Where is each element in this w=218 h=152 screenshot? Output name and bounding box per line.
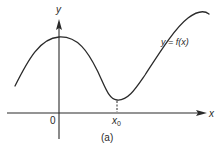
figure-caption: (a) [101, 132, 113, 143]
graph-canvas: y x 0 x0 y = f(x) (a) [0, 0, 218, 152]
function-graph-figure: y x 0 x0 y = f(x) (a) [0, 0, 218, 152]
function-curve [15, 12, 209, 100]
x-axis-label: x [208, 108, 215, 119]
x0-label-subscript: 0 [117, 120, 121, 127]
y-axis-label: y [55, 4, 62, 15]
origin-label: 0 [50, 115, 56, 126]
x0-label: x0 [111, 115, 121, 127]
x-axis [7, 110, 207, 116]
curve-label: y = f(x) [160, 37, 189, 47]
